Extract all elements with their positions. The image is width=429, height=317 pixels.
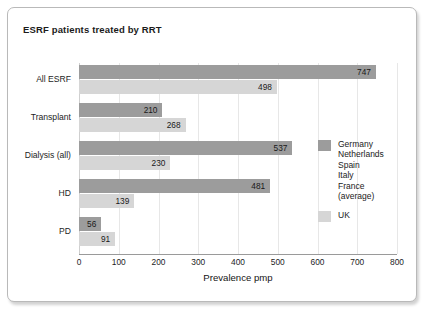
bar-value-label: 210 bbox=[144, 106, 158, 114]
x-tick-700: 700 bbox=[350, 257, 364, 267]
category-label: PD bbox=[59, 226, 71, 236]
legend-label: Germany Netherlands Spain Italy France (… bbox=[338, 139, 384, 201]
x-tick-500: 500 bbox=[271, 257, 285, 267]
bar-group: Transplant210268 bbox=[79, 103, 397, 134]
bar-value-label: 139 bbox=[115, 197, 129, 205]
x-tick-800: 800 bbox=[390, 257, 404, 267]
bar: 139 bbox=[79, 194, 134, 208]
x-axis-line bbox=[79, 254, 397, 255]
figure-card: ESRF patients treated by RRT All ESRF747… bbox=[7, 7, 417, 302]
bar-group: All ESRF747498 bbox=[79, 65, 397, 96]
x-tick-0: 0 bbox=[77, 257, 82, 267]
category-label: All ESRF bbox=[36, 74, 71, 84]
bar-value-label: 537 bbox=[274, 144, 288, 152]
bar-value-label: 498 bbox=[258, 83, 272, 91]
bar: 498 bbox=[79, 80, 277, 94]
bar: 56 bbox=[79, 217, 101, 231]
bar-value-label: 230 bbox=[152, 159, 166, 167]
bar-value-label: 268 bbox=[167, 121, 181, 129]
x-tick-100: 100 bbox=[112, 257, 126, 267]
x-tick-600: 600 bbox=[311, 257, 325, 267]
category-label: Transplant bbox=[31, 112, 71, 122]
x-axis-title: Prevalence pmp bbox=[79, 272, 397, 283]
bar-value-label: 481 bbox=[251, 182, 265, 190]
x-tick-400: 400 bbox=[231, 257, 245, 267]
bar: 268 bbox=[79, 118, 186, 132]
bar: 537 bbox=[79, 141, 292, 155]
bar: 91 bbox=[79, 232, 115, 246]
legend-swatch-uk bbox=[318, 211, 331, 222]
category-label: Dialysis (all) bbox=[25, 150, 71, 160]
chart-legend: Germany Netherlands Spain Italy France (… bbox=[318, 139, 413, 222]
x-tick-300: 300 bbox=[191, 257, 205, 267]
bar-value-label: 56 bbox=[87, 220, 96, 228]
bar: 747 bbox=[79, 65, 376, 79]
x-axis-tick-labels: 0100200300400500600700800 bbox=[79, 257, 397, 271]
bar-value-label: 91 bbox=[101, 235, 110, 243]
legend-swatch-avg bbox=[318, 140, 331, 151]
legend-entry: Germany Netherlands Spain Italy France (… bbox=[318, 139, 413, 201]
bar: 481 bbox=[79, 179, 270, 193]
legend-label: UK bbox=[338, 210, 350, 220]
category-label: HD bbox=[59, 188, 71, 198]
bar: 230 bbox=[79, 156, 170, 170]
bar: 210 bbox=[79, 103, 162, 117]
x-tick-200: 200 bbox=[152, 257, 166, 267]
legend-entry: UK bbox=[318, 210, 413, 222]
chart-title: ESRF patients treated by RRT bbox=[23, 24, 162, 35]
bar-value-label: 747 bbox=[357, 68, 371, 76]
